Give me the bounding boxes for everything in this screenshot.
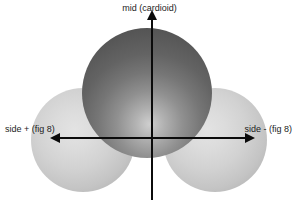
polar-pattern-diagram: mid (cardioid) side + (fig 8) side - (fi… [0,0,297,200]
label-mid-cardioid: mid (cardioid) [2,3,297,14]
label-side-plus: side + (fig 8) [5,124,55,135]
vertical-axis-line [151,16,153,200]
horizontal-axis-line [57,137,246,139]
label-side-minus: side - (fig 8) [244,124,292,135]
